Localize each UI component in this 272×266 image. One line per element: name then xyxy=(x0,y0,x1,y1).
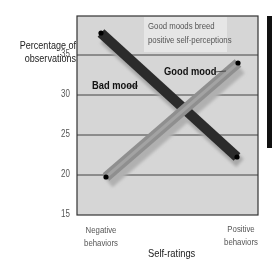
good-mood-point-negative xyxy=(103,174,108,179)
x-tick-positive: Positive behaviors xyxy=(222,222,260,248)
x-tick-positive-line-2: behaviors xyxy=(222,235,260,248)
annotation-line-1: Good moods breed xyxy=(148,19,232,33)
x-tick-negative-line-2: behaviors xyxy=(82,236,120,249)
x-tick-positive-line-1: Positive xyxy=(222,222,260,235)
annotation-text: Good moods breed positive self-perceptio… xyxy=(148,19,232,47)
x-tick-negative: Negative behaviors xyxy=(82,223,120,249)
bad-mood-point-negative xyxy=(98,30,103,35)
bad-mood-point-positive xyxy=(234,154,239,159)
bad-mood-label: Bad mood xyxy=(92,79,138,91)
x-axis-label: Self-ratings xyxy=(148,247,195,259)
x-tick-negative-line-1: Negative xyxy=(82,223,120,236)
good-mood-label: Good mood xyxy=(164,65,216,77)
edge-bar xyxy=(267,16,272,148)
good-mood-point-positive xyxy=(235,60,240,65)
annotation-line-2: positive self-perceptions xyxy=(148,33,232,47)
